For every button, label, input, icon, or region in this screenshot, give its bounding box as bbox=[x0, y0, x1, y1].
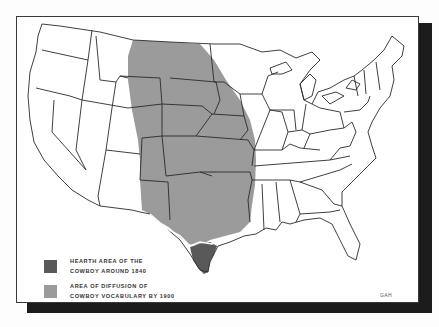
legend-hearth: HEARTH AREA OF THE COWBOY AROUND 1840 bbox=[44, 257, 146, 276]
diffusion-label-line2: COWBOY VOCABULARY BY 1900 bbox=[70, 292, 175, 302]
author-credit: GAH bbox=[380, 292, 392, 298]
diffusion-area bbox=[128, 40, 256, 246]
hearth-label-line1: HEARTH AREA OF THE bbox=[70, 257, 146, 267]
hearth-label-line2: COWBOY AROUND 1840 bbox=[70, 267, 146, 277]
legend-diffusion: AREA OF DIFFUSION OF COWBOY VOCABULARY B… bbox=[44, 282, 175, 301]
diffusion-swatch bbox=[44, 285, 57, 298]
hearth-swatch bbox=[44, 260, 57, 273]
diffusion-label-line1: AREA OF DIFFUSION OF bbox=[70, 282, 175, 292]
hearth-area bbox=[190, 242, 217, 274]
us-map bbox=[0, 0, 439, 327]
